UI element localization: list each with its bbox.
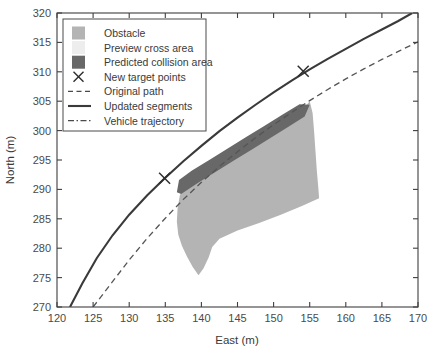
svg-text:320: 320 [33,7,51,19]
legend-label: Updated segments [104,100,192,112]
svg-text:140: 140 [192,312,210,324]
svg-text:125: 125 [84,312,102,324]
legend-label: Preview cross area [104,42,193,54]
legend-swatch [72,27,85,40]
chart-canvas: 120125130135140145150155160165170 270275… [0,0,440,357]
svg-text:155: 155 [301,312,319,324]
legend-swatch [72,41,85,54]
svg-text:145: 145 [228,312,246,324]
figure-container: 120125130135140145150155160165170 270275… [0,0,440,357]
chart-legend: ObstaclePreview cross areaPredicted coll… [63,19,213,131]
svg-text:275: 275 [33,272,51,284]
legend-swatch [72,56,85,69]
svg-text:165: 165 [373,312,391,324]
legend-label: Original path [104,85,164,97]
svg-text:120: 120 [48,312,66,324]
svg-text:295: 295 [33,154,51,166]
legend-label: Predicted collision area [104,56,213,68]
svg-text:160: 160 [337,312,355,324]
y-axis-title: North (m) [4,136,16,185]
legend-label: Vehicle trajectory [104,115,185,127]
svg-text:285: 285 [33,213,51,225]
svg-text:290: 290 [33,183,51,195]
svg-text:270: 270 [33,301,51,313]
svg-text:315: 315 [33,36,51,48]
svg-text:310: 310 [33,66,51,78]
svg-text:170: 170 [409,312,427,324]
svg-text:130: 130 [120,312,138,324]
svg-text:305: 305 [33,95,51,107]
svg-text:280: 280 [33,242,51,254]
legend-label: Obstacle [104,27,146,39]
legend-label: New target points [104,71,186,83]
svg-text:135: 135 [156,312,174,324]
svg-text:150: 150 [264,312,282,324]
svg-text:300: 300 [33,125,51,137]
x-axis-title: East (m) [215,334,259,346]
